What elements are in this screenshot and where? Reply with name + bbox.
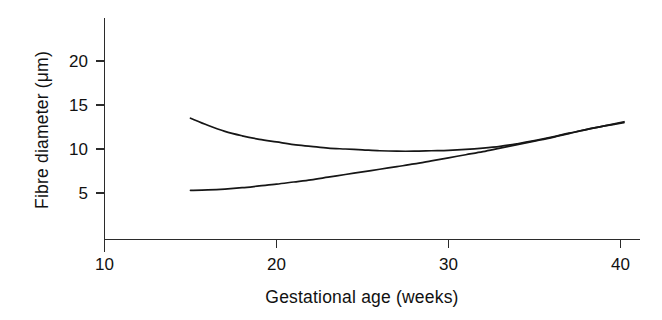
fibre-diameter-line-chart: 20 15 10 5 10 20 30 40 Fibre diameter (μ… <box>0 0 662 320</box>
x-axis-tick-labels: 10 20 30 40 <box>95 255 630 274</box>
y-axis-label: Fibre diameter (μm) <box>32 51 52 209</box>
y-tick-label-10: 10 <box>69 140 88 159</box>
y-axis-tick-labels: 20 15 10 5 <box>69 52 88 203</box>
x-tick-label-30: 30 <box>439 255 458 274</box>
x-axis-label: Gestational age (weeks) <box>265 287 458 307</box>
chart-figure: 20 15 10 5 10 20 30 40 Fibre diameter (μ… <box>0 0 662 320</box>
x-axis-ticks <box>105 240 621 249</box>
y-tick-label-5: 5 <box>79 184 88 203</box>
x-tick-label-10: 10 <box>95 255 114 274</box>
series-lower-curve <box>191 122 624 191</box>
y-axis-ticks <box>96 61 105 193</box>
y-tick-label-20: 20 <box>69 52 88 71</box>
series-upper-curve <box>191 118 624 151</box>
x-tick-label-40: 40 <box>611 255 630 274</box>
x-tick-label-20: 20 <box>267 255 286 274</box>
data-curves <box>191 118 624 190</box>
y-tick-label-15: 15 <box>69 96 88 115</box>
